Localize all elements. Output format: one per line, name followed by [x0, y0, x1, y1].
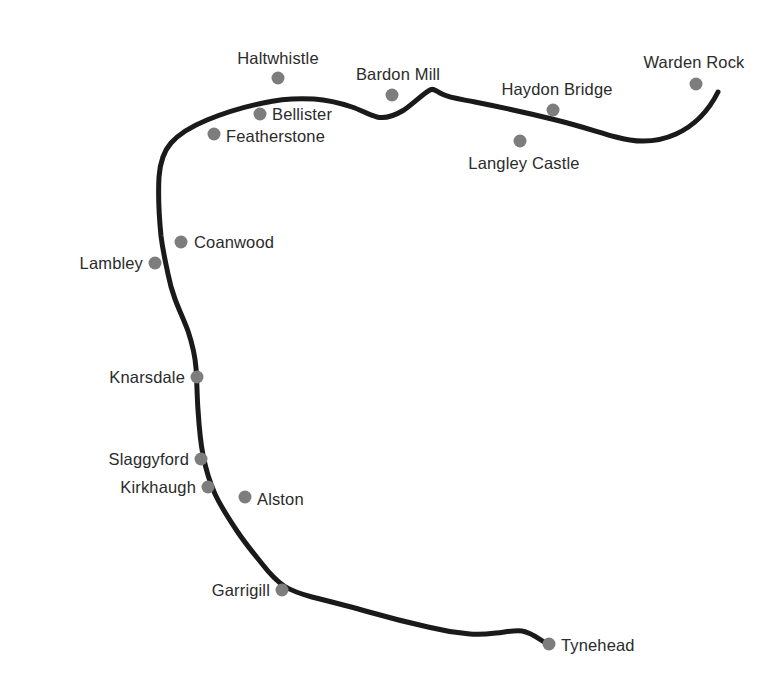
place-label-tynehead: Tynehead: [561, 637, 635, 654]
place-label-slaggyford: Slaggyford: [109, 451, 189, 468]
route-line-layer: [0, 0, 780, 687]
place-label-kirkhaugh: Kirkhaugh: [120, 479, 196, 496]
place-dot-featherstone[interactable]: [208, 128, 221, 141]
place-dot-tynehead[interactable]: [543, 638, 556, 651]
place-dot-coanwood[interactable]: [175, 236, 188, 249]
place-dot-haydon-bridge[interactable]: [547, 104, 560, 117]
place-dot-garrigill[interactable]: [276, 584, 289, 597]
place-label-garrigill: Garrigill: [212, 582, 270, 599]
place-label-langley-castle: Langley Castle: [468, 155, 579, 172]
route-line: [159, 89, 718, 644]
place-label-knarsdale: Knarsdale: [109, 369, 185, 386]
place-dot-bellister[interactable]: [254, 108, 267, 121]
place-label-coanwood: Coanwood: [194, 234, 274, 251]
place-label-lambley: Lambley: [80, 255, 143, 272]
place-dot-kirkhaugh[interactable]: [202, 481, 215, 494]
place-dot-bardon-mill[interactable]: [386, 89, 399, 102]
place-label-haydon-bridge: Haydon Bridge: [501, 81, 612, 98]
place-dot-langley-castle[interactable]: [514, 135, 527, 148]
place-label-featherstone: Featherstone: [226, 128, 325, 145]
place-dot-knarsdale[interactable]: [191, 371, 204, 384]
route-map: HaltwhistleBardon MillWarden RockHaydon …: [0, 0, 780, 687]
place-dot-lambley[interactable]: [149, 257, 162, 270]
place-dot-slaggyford[interactable]: [195, 453, 208, 466]
place-label-alston: Alston: [257, 491, 304, 508]
place-dot-alston[interactable]: [239, 491, 252, 504]
place-dot-warden-rock[interactable]: [690, 78, 703, 91]
place-dot-haltwhistle[interactable]: [272, 72, 285, 85]
place-label-haltwhistle: Haltwhistle: [237, 50, 318, 67]
place-label-bardon-mill: Bardon Mill: [356, 66, 440, 83]
place-label-bellister: Bellister: [272, 106, 332, 123]
place-label-warden-rock: Warden Rock: [644, 54, 745, 71]
